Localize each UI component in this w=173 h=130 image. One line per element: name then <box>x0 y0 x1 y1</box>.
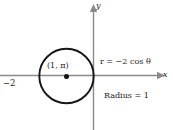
polar-graph-figure: y x −2 (1, π) r = −2 cos θ Radius = 1 <box>0 0 173 130</box>
x-axis-label: x <box>163 71 168 79</box>
center-point-dot <box>64 74 69 79</box>
y-axis-label: y <box>96 2 101 10</box>
radius-label: Radius = 1 <box>104 92 149 100</box>
equation-label: r = −2 cos θ <box>100 58 151 66</box>
x-tick-label-neg2: −2 <box>3 79 16 88</box>
center-point-label: (1, π) <box>47 62 69 70</box>
